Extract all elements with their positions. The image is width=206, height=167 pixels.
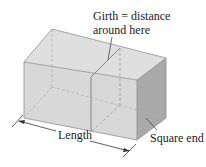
box-girth-diagram: Girth = distance around here Length Squa… (0, 0, 206, 167)
square-end-label: Square end (150, 131, 204, 145)
girth-label-line1: Girth = distance (93, 9, 170, 23)
arrowhead-left-icon (18, 120, 25, 124)
length-label: Length (58, 128, 92, 142)
girth-label-line2: around here (93, 23, 150, 37)
length-arrow-right (90, 141, 129, 151)
